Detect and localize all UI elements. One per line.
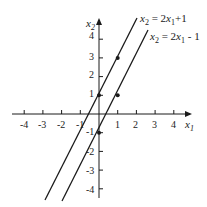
y-axis: 4 3 2 1 -1 -2 -3 -4 x2 [85, 17, 103, 198]
line-lower: x2 = 2x1 - 1 [62, 30, 200, 201]
y-tick-label: 2 [89, 69, 94, 80]
y-tick-label: -4 [86, 184, 94, 195]
x-tick-label: 1 [115, 119, 120, 130]
point-marker [97, 93, 101, 97]
equation-label-upper: x2 = 2x1+1 [139, 12, 187, 27]
x-axis: -4 -3 -2 -1 1 2 3 4 x1 [12, 110, 194, 133]
equation-label-lower: x2 = 2x1 - 1 [149, 30, 200, 45]
y-tick-label: 3 [89, 51, 94, 62]
y-tick-label: -1 [86, 126, 94, 137]
x-tick-label: -3 [38, 119, 46, 130]
x-tick-label: 4 [171, 119, 176, 130]
point-marker [116, 93, 120, 97]
x-tick-label: 3 [152, 119, 157, 130]
x-axis-arrow-icon [185, 111, 192, 117]
x-tick-label: -4 [20, 119, 28, 130]
y-tick-label: -3 [86, 165, 94, 176]
x-axis-label: x1 [184, 118, 194, 133]
x-tick-label: -2 [57, 119, 65, 130]
y-axis-arrow-icon [96, 18, 102, 25]
coordinate-plane: -4 -3 -2 -1 1 2 3 4 x1 4 3 2 1 -1 -2 -3 … [0, 0, 207, 207]
point-marker [97, 131, 101, 135]
y-axis-label: x2 [85, 17, 95, 32]
x-tick-label: 2 [133, 119, 138, 130]
point-marker [116, 56, 120, 60]
y-tick-label: 1 [89, 88, 94, 99]
